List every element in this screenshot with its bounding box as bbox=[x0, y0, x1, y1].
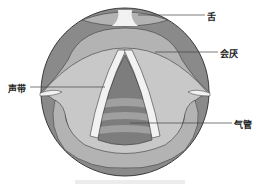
label-epiglottis: 会厌 bbox=[220, 47, 238, 60]
label-vocal-cords: 声带 bbox=[8, 82, 26, 95]
larynx-diagram bbox=[0, 0, 260, 189]
label-trachea: 气管 bbox=[234, 118, 252, 131]
figure-caption bbox=[75, 180, 185, 184]
label-tongue: 舌 bbox=[207, 10, 216, 23]
